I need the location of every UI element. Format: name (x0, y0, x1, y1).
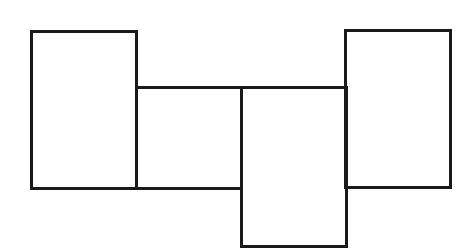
diagram-canvas (0, 0, 472, 252)
rectangle-1 (30, 30, 138, 190)
rectangle-3 (240, 86, 348, 248)
rectangle-2 (135, 86, 243, 190)
rectangle-4 (344, 29, 452, 189)
